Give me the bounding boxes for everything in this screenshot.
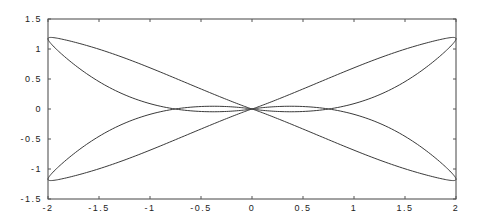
- x-tick-label: -2: [42, 203, 53, 213]
- x-tick-label: -1: [144, 203, 155, 213]
- x-tick-label: 1: [351, 203, 358, 213]
- y-tick-label: 0.5: [25, 74, 42, 84]
- x-tick-label: -1.5: [88, 203, 110, 213]
- line-chart: -2-1.5-1-0.500.511.52 -1.5-1-0.500.511.5: [0, 0, 479, 218]
- curve-lobe: [252, 106, 456, 180]
- y-axis-tick-labels: -1.5-1-0.500.511.5: [20, 14, 42, 204]
- y-tick-label: -0.5: [20, 134, 42, 144]
- x-tick-label: -0.5: [190, 203, 212, 213]
- x-tick-label: 0.5: [294, 203, 311, 213]
- curve-lobe: [48, 37, 252, 111]
- x-tick-label: 2: [453, 203, 460, 213]
- x-axis-tick-labels: -2-1.5-1-0.500.511.52: [42, 203, 459, 213]
- y-tick-label: 0: [35, 104, 42, 114]
- y-tick-label: 1: [35, 44, 42, 54]
- curve-series: [48, 37, 456, 180]
- y-tick-label: -1: [31, 164, 42, 174]
- x-tick-label: 1.5: [396, 203, 413, 213]
- curve-lobe: [252, 37, 456, 111]
- y-tick-label: -1.5: [20, 194, 42, 204]
- curve-lobe: [48, 106, 252, 180]
- y-tick-label: 1.5: [25, 14, 42, 24]
- x-tick-label: 0: [249, 203, 256, 213]
